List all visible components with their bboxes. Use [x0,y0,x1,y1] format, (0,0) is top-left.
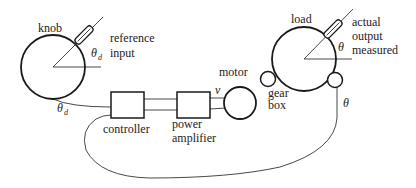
motor-label: motor [219,65,248,79]
reference-input-label-line1: reference [110,31,155,45]
power-amplifier-label-line2: amplifier [172,131,216,145]
theta-d-knob-subscript: d [98,53,103,62]
load-indicator [323,19,344,40]
theta-d-knob-symbol: θ [91,46,97,60]
voltage-symbol: v [215,83,221,97]
power-amplifier-label-line1: power [172,117,202,131]
motor-circle [224,87,256,119]
actual-output-label-line2: output [352,29,383,43]
controller-box [111,92,144,118]
gear-box-circle [261,72,276,87]
load-label: load [291,12,312,26]
reference-input-label-line2: input [110,46,135,60]
actual-output-label-line3: measured [352,43,398,57]
servo-system-diagram: knob reference input θ d θ d controller … [0,0,416,188]
theta-feedback-symbol: θ [343,96,349,110]
knob-handle [74,25,95,46]
knob-label: knob [38,21,62,35]
power-amplifier-box [177,92,210,118]
theta-d-wire-subscript: d [64,108,69,117]
theta-load-symbol: θ [338,40,344,54]
sensor-circle [328,73,343,88]
theta-d-wire-symbol: θ [57,101,63,115]
gear-box-label-line2: box [268,98,286,112]
actual-output-label-line1: actual [352,15,381,29]
amp-motor-wire-bottom [210,108,226,109]
controller-label: controller [103,122,150,136]
